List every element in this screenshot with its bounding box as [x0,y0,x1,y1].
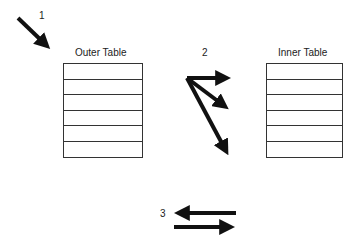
step-3-label: 3 [160,208,166,220]
outer-table-row [64,64,142,80]
outer-table-title: Outer Table [75,47,127,59]
outer-table-row [64,111,142,127]
step2-fan-arrows-icon [187,78,225,149]
step3-bidirectional-arrows-icon [174,213,236,227]
inner-table-row [267,126,342,142]
outer-table [63,63,143,158]
inner-table [266,63,343,158]
inner-table-row [267,142,342,158]
outer-table-row [64,142,142,158]
inner-table-row [267,80,342,96]
nested-loop-diagram: 1 2 3 Outer Table Inner Table [0,0,353,247]
inner-table-row [267,111,342,127]
inner-table-title: Inner Table [278,47,327,59]
outer-table-row [64,80,142,96]
inner-table-row [267,64,342,80]
step-1-label: 1 [39,10,45,22]
outer-table-row [64,126,142,142]
outer-table-row [64,95,142,111]
step-2-label: 2 [202,47,208,59]
inner-table-row [267,95,342,111]
